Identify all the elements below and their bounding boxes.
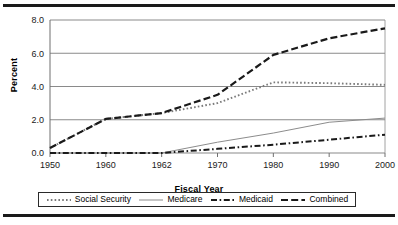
bottom-divider-rule bbox=[3, 214, 395, 217]
x-tick-label: 1950 bbox=[40, 160, 60, 170]
legend-item-social-security[interactable]: Social Security bbox=[46, 195, 131, 205]
legend-label: Medicare bbox=[167, 195, 202, 204]
y-tick-label: 4.0 bbox=[31, 82, 44, 92]
chart-plot-stage: 0.02.04.06.08.01950196019621970198019902… bbox=[0, 10, 398, 190]
y-tick-label: 0.0 bbox=[31, 148, 44, 158]
x-tick-label: 1970 bbox=[207, 160, 227, 170]
legend-item-combined[interactable]: Combined bbox=[280, 195, 348, 205]
legend-label: Social Security bbox=[75, 195, 131, 204]
top-divider-rule bbox=[3, 4, 395, 7]
y-axis-title: Percent bbox=[9, 45, 19, 105]
legend-label: Combined bbox=[309, 195, 348, 204]
line-chart-svg: 0.02.04.06.08.01950196019621970198019902… bbox=[0, 10, 398, 190]
x-tick-label: 1990 bbox=[319, 160, 339, 170]
legend-item-medicare[interactable]: Medicare bbox=[138, 195, 202, 205]
chart-legend: Social SecurityMedicareMedicaidCombined bbox=[38, 192, 356, 207]
chart-figure: 0.02.04.06.08.01950196019621970198019902… bbox=[0, 0, 398, 225]
legend-swatch-dashed-icon bbox=[280, 195, 306, 205]
y-tick-label: 2.0 bbox=[31, 115, 44, 125]
legend-swatch-dotted-icon bbox=[46, 195, 72, 205]
x-tick-label: 2000 bbox=[375, 160, 395, 170]
legend-swatch-solid-icon bbox=[138, 195, 164, 205]
x-tick-label: 1960 bbox=[96, 160, 116, 170]
y-tick-label: 8.0 bbox=[31, 15, 44, 25]
y-tick-label: 6.0 bbox=[31, 49, 44, 59]
x-tick-label: 1962 bbox=[152, 160, 172, 170]
legend-swatch-dash-dot-icon bbox=[210, 195, 236, 205]
legend-label: Medicaid bbox=[239, 195, 273, 204]
legend-item-medicaid[interactable]: Medicaid bbox=[210, 195, 273, 205]
x-tick-label: 1980 bbox=[263, 160, 283, 170]
